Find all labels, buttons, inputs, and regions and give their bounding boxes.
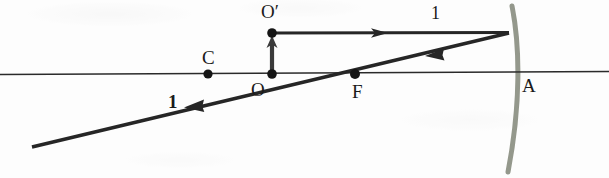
- concave-mirror-arc: [508, 6, 518, 172]
- point-label-O: O: [251, 80, 265, 99]
- incident-parallel-ray-line: [272, 33, 509, 34]
- point-label-A: A: [522, 76, 536, 95]
- point-label-C: C: [202, 48, 215, 67]
- object-arrow: [267, 36, 278, 73]
- ray-label-incident-1: 1: [431, 4, 440, 22]
- point-dot-O: [267, 69, 277, 79]
- point-label-F: F: [352, 82, 363, 101]
- point-dot-F: [350, 69, 360, 79]
- point-label-O-prime: O′: [261, 2, 279, 21]
- ray-diagram-figure: C O O′ F A 1 1: [0, 0, 609, 178]
- ray-label-reflected-1: 1: [168, 92, 178, 111]
- diagram-canvas: [0, 0, 609, 178]
- incident-parallel-ray: [272, 28, 509, 38]
- point-dot-O-prime: [267, 28, 277, 38]
- point-dot-C: [203, 69, 212, 78]
